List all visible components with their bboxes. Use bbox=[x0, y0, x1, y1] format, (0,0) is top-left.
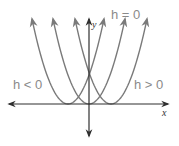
y-axis-label: y bbox=[92, 20, 96, 30]
label-h-greater-than-zero: h > 0 bbox=[134, 78, 163, 91]
parabola-diagram bbox=[0, 0, 179, 146]
label-h-less-than-zero: h < 0 bbox=[13, 78, 42, 91]
parabola-h<0 bbox=[32, 19, 104, 104]
x-axis-label: x bbox=[162, 108, 166, 118]
label-h-equals-zero: h = 0 bbox=[111, 8, 140, 21]
